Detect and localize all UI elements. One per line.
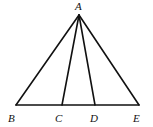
segment-ab <box>16 15 79 105</box>
segment-ae <box>79 15 139 105</box>
label-d: D <box>89 112 98 124</box>
segment-ad <box>79 15 95 105</box>
label-c: C <box>55 112 63 124</box>
label-a: A <box>74 0 82 12</box>
geometry-figure: A B C D E <box>0 0 153 127</box>
label-e: E <box>132 112 140 124</box>
label-b: B <box>8 112 15 124</box>
